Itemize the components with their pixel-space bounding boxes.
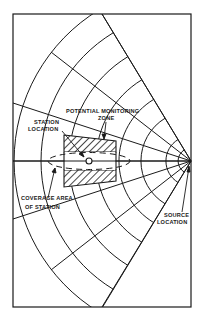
plume-monitoring-diagram: POTENTIAL MONITORING ZONE STATION LOCATI… — [0, 0, 205, 325]
label-potential-monitoring-zone: POTENTIAL MONITORING — [66, 108, 139, 114]
label-coverage-area-line2: OF STATION — [25, 204, 60, 210]
source-marker-icon — [188, 159, 191, 162]
label-station-location: STATION — [34, 119, 59, 125]
label-source-location-line2: LOCATION — [157, 219, 187, 225]
label-potential-monitoring-zone-line2: ZONE — [98, 115, 114, 121]
station-marker-icon — [86, 158, 92, 164]
label-station-location-line2: LOCATION — [28, 126, 58, 132]
label-coverage-area: COVERAGE AREA — [21, 195, 73, 201]
label-source-location: SOURCE — [164, 212, 189, 218]
